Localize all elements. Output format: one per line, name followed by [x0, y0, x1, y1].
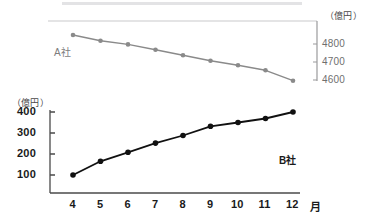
- data-point: [153, 48, 158, 53]
- data-point: [153, 140, 159, 146]
- data-point: [263, 116, 269, 122]
- x-tick-label: 9: [207, 198, 213, 210]
- x-tick-label: 11: [259, 198, 271, 210]
- x-tick-label: 4: [70, 198, 76, 210]
- data-point: [126, 42, 131, 47]
- series-b-line-group: [70, 109, 296, 178]
- data-point: [125, 150, 131, 156]
- top-ytick-4800: 4800: [322, 38, 345, 49]
- data-point: [98, 159, 104, 165]
- x-tick-label: 6: [125, 198, 131, 210]
- data-point: [263, 68, 268, 73]
- bottom-ytick-300: 300: [17, 126, 36, 138]
- bottom-ytick-100: 100: [17, 168, 36, 180]
- x-tick-label: 12: [286, 198, 299, 210]
- series-b-line: [73, 112, 293, 175]
- data-point: [71, 33, 76, 38]
- bottom-ytick-400: 400: [17, 105, 36, 117]
- top-axis-frame: [48, 21, 317, 81]
- x-tick-label: 5: [97, 198, 103, 210]
- bottom-chart-panel: [0, 95, 371, 205]
- chart-figure: （億円） A社 4800 4700 4600 （億円） 400 300 200 …: [0, 0, 371, 222]
- data-point: [236, 63, 241, 68]
- x-tick-label: 7: [152, 198, 158, 210]
- bottom-axis-ticks: [50, 112, 55, 175]
- series-a-label: A社: [54, 44, 71, 59]
- bottom-axis-frame: [50, 110, 300, 193]
- data-point: [208, 124, 214, 130]
- data-point: [208, 58, 213, 63]
- x-tick-label: 8: [180, 198, 186, 210]
- bottom-chart-svg: [0, 95, 371, 205]
- top-ytick-4700: 4700: [322, 56, 345, 67]
- series-a-line: [73, 35, 293, 81]
- data-point: [291, 78, 296, 83]
- data-point: [290, 109, 296, 115]
- top-axis-unit-label: （億円）: [325, 9, 362, 22]
- series-a-markers: [71, 33, 296, 83]
- top-ytick-4600: 4600: [322, 74, 345, 85]
- x-axis-unit-label: 月: [310, 198, 321, 214]
- x-tick-label: 10: [231, 198, 244, 210]
- data-point: [181, 53, 186, 58]
- data-point: [180, 133, 186, 139]
- series-a-line-group: [71, 33, 296, 83]
- data-point: [98, 39, 103, 44]
- data-point: [235, 120, 241, 126]
- data-point: [70, 172, 76, 178]
- bottom-ytick-200: 200: [17, 147, 36, 159]
- series-b-label: B社: [279, 152, 297, 167]
